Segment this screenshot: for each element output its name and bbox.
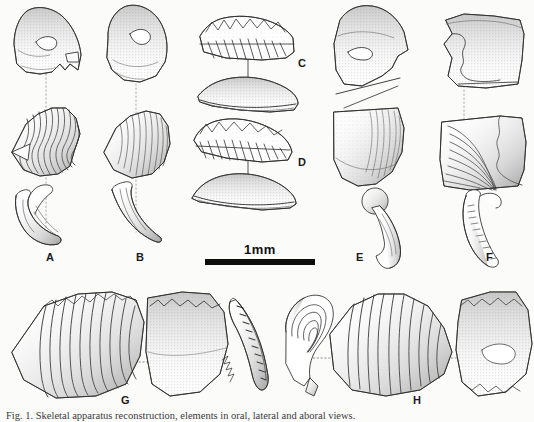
panel-c-artwork <box>198 16 298 112</box>
panel-label-h: H <box>413 395 421 406</box>
panel-label-a: A <box>46 252 54 263</box>
panel-e-artwork <box>334 6 408 269</box>
panel-g-artwork <box>12 292 268 398</box>
panel-label-g: G <box>121 395 130 406</box>
panel-label-d: D <box>298 157 306 168</box>
figure-caption: Fig. 1. Skeletal apparatus reconstructio… <box>6 409 526 422</box>
scale-bar-label: 1mm <box>205 242 315 257</box>
panel-label-c: C <box>298 58 306 69</box>
scale-bar: 1mm <box>205 242 315 265</box>
scale-bar-rule <box>205 259 315 265</box>
panel-d-artwork <box>192 119 296 210</box>
panel-a-artwork <box>12 8 81 245</box>
panel-label-e: E <box>356 252 364 263</box>
figure-plate: A B C D E F G H 1mm Fig. 1. Skeletal app… <box>0 0 534 422</box>
panel-f-artwork <box>440 14 526 267</box>
panel-label-f: F <box>486 252 493 263</box>
illustration-layer <box>0 0 534 422</box>
panel-b-artwork <box>104 5 170 242</box>
panel-h-artwork <box>286 292 532 396</box>
panel-label-b: B <box>136 252 144 263</box>
